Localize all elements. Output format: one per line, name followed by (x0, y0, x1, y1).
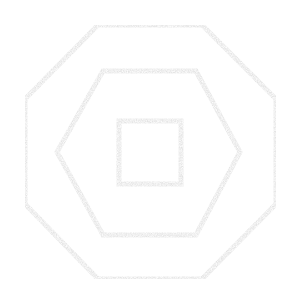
middle-hexagon (57, 71, 240, 235)
nested-shapes-diagram (0, 0, 301, 307)
inner-square (119, 121, 181, 184)
